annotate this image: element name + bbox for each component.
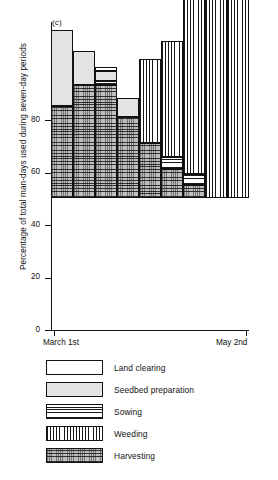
- legend-swatch-sowing: [46, 404, 103, 419]
- legend-swatch-weeding: [46, 426, 103, 441]
- bar-segment-weeding: [139, 59, 161, 143]
- bar-column: [227, 0, 249, 198]
- legend-label: Weeding: [114, 429, 148, 439]
- bar-segment-seedbed-preparation: [117, 98, 139, 116]
- legend-item: Weeding: [46, 426, 278, 443]
- figure-panel-c: (c) Percentage of total man-days used du…: [0, 0, 278, 480]
- bar-column: [161, 41, 183, 199]
- legend-item: Seedbed preparation: [46, 382, 278, 399]
- bar-segment-harvesting: [95, 85, 117, 198]
- bar-column: [139, 59, 161, 198]
- bar-column: [183, 0, 205, 198]
- bar-segment-land-clearing: [95, 67, 117, 71]
- chart-legend: Land clearingSeedbed preparationSowingWe…: [46, 360, 278, 476]
- bar-segment-sowing: [95, 81, 117, 85]
- legend-swatch-harvesting: [46, 448, 103, 463]
- legend-item: Land clearing: [46, 360, 278, 377]
- chart-plot-area: (c) Percentage of total man-days used du…: [0, 0, 278, 348]
- bar-segment-weeding: [161, 41, 183, 158]
- legend-swatch-seedbed-preparation: [46, 382, 103, 397]
- bar-segment-seedbed-preparation: [51, 30, 73, 106]
- legend-item: Sowing: [46, 404, 278, 421]
- bar-column: [51, 30, 73, 198]
- bar-column: [73, 51, 95, 198]
- bar-segment-harvesting: [183, 185, 205, 198]
- bar-column: [117, 98, 139, 198]
- legend-label: Seedbed preparation: [114, 385, 194, 395]
- bar-segment-seedbed-preparation: [73, 51, 95, 85]
- bar-column: [205, 0, 227, 198]
- legend-label: Harvesting: [114, 451, 155, 461]
- bar-segment-harvesting: [161, 169, 183, 198]
- bar-segment-harvesting: [51, 106, 73, 198]
- bar-column: [95, 67, 117, 198]
- bar-series-group: [0, 0, 278, 348]
- bar-segment-weeding: [227, 0, 249, 198]
- legend-swatch-land-clearing: [46, 360, 103, 375]
- bar-segment-sowing: [161, 157, 183, 169]
- legend-item: Harvesting: [46, 448, 278, 465]
- bar-segment-sowing: [183, 174, 205, 185]
- legend-label: Land clearing: [114, 363, 166, 373]
- bar-segment-seedbed-preparation: [95, 71, 117, 82]
- legend-label: Sowing: [114, 407, 142, 417]
- bar-segment-weeding: [205, 0, 227, 198]
- bar-segment-harvesting: [73, 85, 95, 198]
- bar-segment-harvesting: [139, 143, 161, 198]
- bar-segment-harvesting: [117, 117, 139, 198]
- bar-segment-weeding: [183, 0, 205, 174]
